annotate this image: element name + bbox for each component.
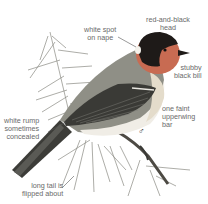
branch bbox=[118, 132, 168, 184]
label-head: red-and-black head bbox=[146, 16, 190, 32]
male-symbol: ♂ bbox=[138, 126, 145, 136]
label-bill: stubby black bill bbox=[174, 64, 202, 80]
label-nape: white spot on nape bbox=[84, 26, 116, 42]
bird-illustration: white spot on nape red-and-black head st… bbox=[0, 0, 208, 204]
label-rump: white rump sometimes concealed bbox=[4, 117, 39, 141]
label-wingbar: one faint upperwing bar bbox=[162, 105, 195, 129]
bill bbox=[178, 50, 190, 56]
label-tail: long tail is flipped about bbox=[22, 182, 63, 198]
